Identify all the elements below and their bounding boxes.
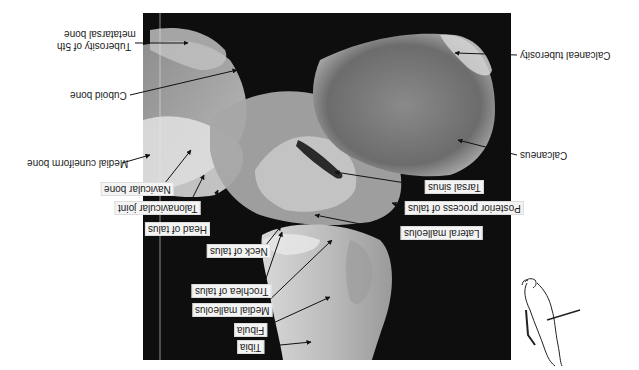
label-fibula: Fibula	[234, 323, 267, 337]
label-cuboid-bone: Cuboid bone	[70, 89, 127, 101]
label-calcaneus: Calcaneus	[520, 149, 567, 161]
label-talonavicular-joint: Talonavicular joint	[115, 201, 201, 215]
label-posterior-process-of-talus: Posterior process of talus	[405, 201, 524, 215]
anatomy-figure: Calcaneal tuberosity Calcaneus Tarsal si…	[0, 0, 639, 370]
label-tuberosity-5th-metatarsal-line2: metatarsal bone	[64, 28, 136, 40]
label-tibia: Tibia	[237, 340, 264, 354]
label-navicular-bone: Navicular bone	[101, 182, 174, 196]
label-medial-malleolus: Medial malleolus	[192, 303, 272, 317]
foot-orientation-inset	[522, 279, 580, 366]
label-head-of-talus: Head of talus	[145, 222, 210, 236]
label-neck-of-talus: Neck of talus	[207, 244, 271, 258]
label-calcaneal-tuberosity: Calcaneal tuberosity	[520, 49, 611, 61]
label-trochlea-of-talus: Trochlea of talus	[192, 284, 272, 298]
label-tarsal-sinus: Tarsal sinus	[425, 180, 484, 194]
label-medial-cuneiform-bone: Medial cuneiform bone	[27, 157, 128, 169]
label-lateral-malleolus: Lateral malleolus	[401, 226, 483, 240]
label-tuberosity-5th-metatarsal-line1: Tuberosity of 5th	[57, 40, 131, 52]
